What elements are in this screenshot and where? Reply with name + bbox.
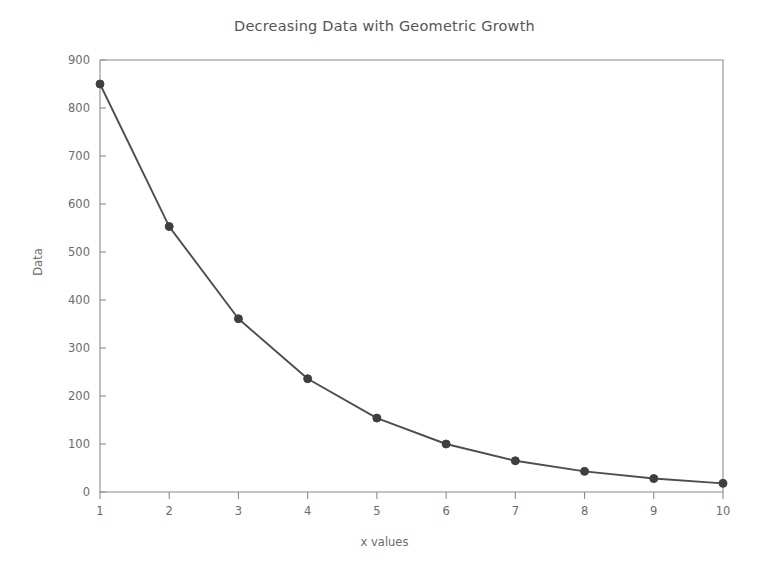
- y-tick-label: 800: [68, 101, 90, 115]
- x-tick-label: 5: [373, 504, 380, 518]
- data-markers: [96, 80, 727, 487]
- x-tick-label: 10: [716, 504, 731, 518]
- y-axis-label: Data: [31, 222, 45, 302]
- y-tick-label: 900: [68, 53, 90, 67]
- data-point: [719, 479, 727, 487]
- x-axis-label: x values: [0, 535, 769, 549]
- x-tick-label: 4: [304, 504, 311, 518]
- y-tick-label: 100: [68, 437, 90, 451]
- y-tick-label: 0: [83, 485, 90, 499]
- data-line: [100, 84, 723, 483]
- chart-page: Decreasing Data with Geometric Growth 01…: [0, 0, 769, 574]
- y-tick-label: 200: [68, 389, 90, 403]
- data-point: [650, 475, 658, 483]
- y-tick-label: 400: [68, 293, 90, 307]
- x-axis-ticks: 12345678910: [96, 492, 730, 518]
- x-tick-label: 2: [166, 504, 173, 518]
- axes-group: [100, 60, 723, 492]
- x-tick-label: 7: [512, 504, 519, 518]
- data-point: [581, 467, 589, 475]
- x-tick-label: 1: [96, 504, 103, 518]
- data-point: [96, 80, 104, 88]
- data-point: [511, 457, 519, 465]
- line-chart-plot: 0100200300400500600700800900 12345678910: [0, 0, 769, 574]
- y-tick-label: 500: [68, 245, 90, 259]
- x-tick-label: 9: [650, 504, 657, 518]
- data-point: [373, 414, 381, 422]
- plot-frame: [100, 60, 723, 492]
- x-tick-label: 8: [581, 504, 588, 518]
- y-tick-label: 300: [68, 341, 90, 355]
- y-tick-label: 700: [68, 149, 90, 163]
- data-point: [165, 223, 173, 231]
- data-point: [234, 315, 242, 323]
- x-tick-label: 6: [442, 504, 449, 518]
- y-tick-label: 600: [68, 197, 90, 211]
- data-series-group: [96, 80, 727, 487]
- data-point: [442, 440, 450, 448]
- x-tick-label: 3: [235, 504, 242, 518]
- data-point: [304, 375, 312, 383]
